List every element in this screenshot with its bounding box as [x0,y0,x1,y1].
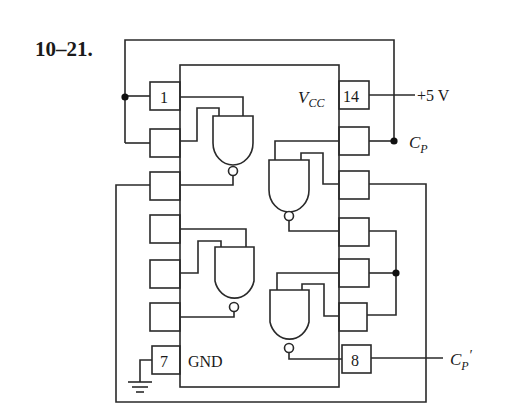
pin-2 [150,129,180,157]
circuit-diagram: 10–21. 1 7 14 8 VCC GND +5 V CP [0,0,507,420]
pin-10 [339,259,369,287]
nand-gate-3 [180,229,254,317]
pin-13 [339,127,369,155]
pin-6 [150,303,180,331]
junction-dot-cp [390,137,397,144]
chip-body [180,65,339,387]
supply-label: +5 V [417,87,450,104]
nand-gate-1 [180,97,253,185]
junction-dot-right [392,269,399,276]
pin-4 [150,215,180,243]
nand-gate-2 [269,141,339,231]
pin-5 [150,260,180,288]
pin-7-label: 7 [160,353,168,370]
gnd-label: GND [188,353,223,370]
right-pins [339,81,371,373]
pin-1-label: 1 [160,89,168,106]
clock-in-label: CP [409,133,428,156]
vcc-label: VCC [298,88,325,110]
pin-8-label: 8 [351,352,359,369]
junction-dot-pin1 [121,93,128,100]
left-pins [150,82,180,374]
pin-14-label: 14 [343,88,359,105]
wire-gnd [140,360,152,382]
problem-number: 10–21. [35,37,93,61]
pin-11 [339,218,369,246]
clock-out-label: CP′ [450,348,473,373]
pin-3 [150,172,180,200]
pin-12 [339,171,369,199]
pin-9 [339,303,367,331]
ground-symbol-icon [128,382,152,392]
nand-gate-4 [270,273,342,359]
